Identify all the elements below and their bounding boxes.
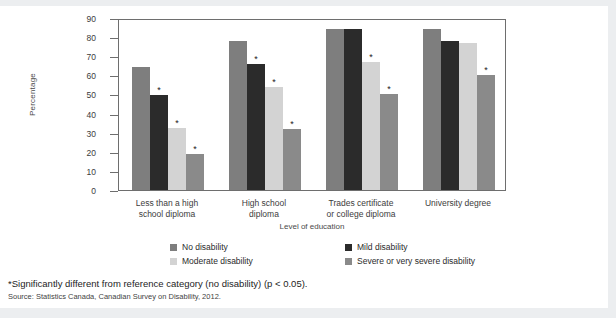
x-axis-title: Level of education	[118, 222, 506, 231]
bar	[229, 41, 247, 190]
y-tick-label: 30	[56, 130, 96, 139]
bar-chart: Percentage 0102030405060708090 *********…	[0, 6, 608, 246]
bar	[344, 29, 362, 190]
significance-note: *Significantly different from reference …	[8, 278, 568, 289]
y-tick-mark	[110, 172, 118, 173]
significance-marker: *	[383, 85, 395, 94]
bar	[326, 29, 344, 190]
significance-marker: *	[250, 55, 262, 64]
y-tick-label: 50	[56, 91, 96, 100]
bar	[380, 94, 398, 190]
legend-label: Moderate disability	[182, 256, 253, 266]
y-tick-mark	[110, 38, 118, 39]
bar	[477, 75, 495, 190]
significance-marker: *	[480, 66, 492, 75]
screenshot-root: Percentage 0102030405060708090 *********…	[0, 0, 616, 318]
legend-item: Moderate disability	[170, 256, 253, 266]
bar	[168, 128, 186, 190]
legend-label: Mild disability	[357, 242, 408, 252]
y-tick-label: 70	[56, 53, 96, 62]
bar	[459, 43, 477, 190]
bar	[283, 129, 301, 190]
bar	[265, 87, 283, 190]
bar	[423, 29, 441, 190]
y-tick-mark	[110, 95, 118, 96]
legend-label: No disability	[182, 242, 228, 252]
legend-swatch	[345, 244, 352, 251]
legend-item: No disability	[170, 242, 228, 252]
y-tick-mark	[110, 115, 118, 116]
source-note: Source: Statistics Canada, Canadian Surv…	[8, 292, 568, 301]
legend-label: Severe or very severe disability	[357, 256, 475, 266]
y-tick-label: 20	[56, 149, 96, 158]
y-tick-mark	[110, 19, 118, 20]
y-tick-mark	[110, 191, 118, 192]
legend-swatch	[170, 244, 177, 251]
legend-item: Mild disability	[345, 242, 408, 252]
footnotes-block: *Significantly different from reference …	[8, 278, 568, 301]
y-tick-mark	[110, 134, 118, 135]
x-axis-category-label: High schooldiploma	[209, 198, 319, 219]
y-tick-mark	[110, 76, 118, 77]
y-tick-label: 90	[56, 15, 96, 24]
y-tick-label: 80	[56, 34, 96, 43]
legend-item: Severe or very severe disability	[345, 256, 475, 266]
y-tick-label: 0	[56, 187, 96, 196]
bar	[362, 62, 380, 190]
plot-area: *********	[118, 19, 506, 191]
significance-marker: *	[153, 86, 165, 95]
bar	[150, 95, 168, 190]
x-axis-category-label: Trades certificateor college diploma	[306, 198, 416, 219]
y-tick-label: 40	[56, 111, 96, 120]
bar	[247, 64, 265, 190]
chart-legend: No disabilityMild disabilityModerate dis…	[170, 242, 500, 272]
y-tick-label: 60	[56, 72, 96, 81]
bar	[186, 154, 204, 190]
bar	[441, 41, 459, 190]
significance-marker: *	[286, 120, 298, 129]
y-tick-mark	[110, 153, 118, 154]
chart-card: Percentage 0102030405060708090 *********…	[0, 6, 608, 308]
x-axis-category-label: University degree	[403, 198, 513, 209]
significance-marker: *	[171, 119, 183, 128]
y-tick-label: 10	[56, 168, 96, 177]
significance-marker: *	[268, 78, 280, 87]
significance-marker: *	[189, 145, 201, 154]
y-axis-title: Percentage	[28, 35, 37, 155]
legend-swatch	[345, 258, 352, 265]
y-tick-mark	[110, 57, 118, 58]
bar	[132, 67, 150, 190]
legend-swatch	[170, 258, 177, 265]
significance-marker: *	[365, 53, 377, 62]
x-axis-category-label: Less than a highschool diploma	[112, 198, 222, 219]
